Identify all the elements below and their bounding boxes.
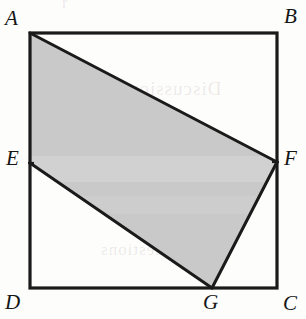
scan-band-light bbox=[0, 156, 306, 182]
vertex-label-E: E bbox=[6, 148, 19, 169]
vertex-label-D: D bbox=[5, 292, 20, 313]
vertex-label-C: C bbox=[283, 293, 297, 314]
geometry-figure: Discussion questions r A B E F D G C bbox=[0, 0, 306, 319]
vertex-label-A: A bbox=[5, 8, 18, 29]
figure-canvas bbox=[0, 0, 306, 319]
vertex-label-F: F bbox=[284, 148, 297, 169]
vertex-label-B: B bbox=[284, 6, 297, 27]
scan-band-light-2 bbox=[0, 196, 306, 214]
vertex-label-G: G bbox=[203, 292, 218, 313]
